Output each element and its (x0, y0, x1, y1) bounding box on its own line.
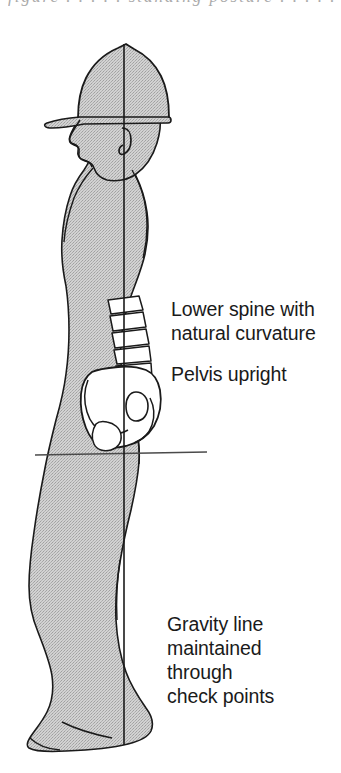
pelvis (81, 367, 161, 451)
body-silhouette (27, 148, 152, 751)
body-shape (27, 148, 152, 751)
vertebra-l3 (112, 329, 149, 348)
callout-lower-spine: Lower spine with natural curvature (171, 297, 316, 345)
callout-gravity-line: Gravity line maintained through check po… (167, 612, 274, 708)
callout-pelvis-upright: Pelvis upright (171, 362, 287, 386)
vertebra-l1 (108, 296, 143, 314)
head-and-helmet-group (45, 44, 171, 181)
pubic-bone (92, 422, 121, 451)
posture-diagram-page: figure . . . . . standing posture . . . … (0, 0, 341, 773)
vertebra-l2 (110, 312, 146, 331)
vertebra-l4 (114, 346, 151, 364)
